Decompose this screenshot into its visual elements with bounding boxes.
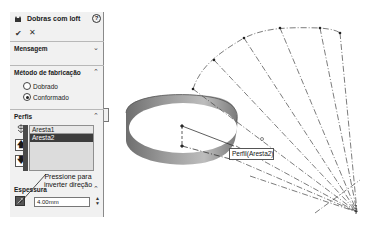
- section-profiles-label: Perfis: [14, 113, 32, 120]
- chevron-up-icon[interactable]: ⌃: [93, 112, 99, 120]
- ok-button[interactable]: ✔: [15, 29, 22, 38]
- help-icon[interactable]: ?: [92, 14, 101, 23]
- radio-dobrado[interactable]: Dobrado: [23, 82, 58, 90]
- selection-color-bar: [23, 125, 28, 171]
- radio-button-checked[interactable]: [23, 93, 31, 101]
- thickness-direction-icon[interactable]: [15, 196, 25, 206]
- section-method[interactable]: Método de fabricação ⌃: [10, 65, 104, 78]
- panel-splitter-handle[interactable]: [104, 108, 109, 122]
- section-method-label: Método de fabricação: [14, 69, 81, 76]
- chevron-down-icon[interactable]: ⌄: [93, 44, 99, 52]
- cancel-button[interactable]: ✕: [29, 28, 36, 37]
- thickness-spinner[interactable]: ▲▼: [95, 196, 100, 206]
- list-item-aresta1[interactable]: Aresta1: [30, 126, 93, 134]
- graphics-viewport: [110, 0, 371, 228]
- radio-label: Conformado: [33, 94, 69, 101]
- lofted-bend-icon: [14, 15, 22, 23]
- chevron-up-icon[interactable]: ⌃: [93, 68, 99, 76]
- panel-title: Dobras com loft: [27, 15, 80, 22]
- profile-callout[interactable]: Perfil(Aresta2): [229, 148, 274, 160]
- list-item-aresta2[interactable]: Aresta2: [30, 134, 93, 142]
- section-message[interactable]: Mensagem ⌄: [10, 41, 104, 54]
- radio-conformado[interactable]: Conformado: [23, 93, 69, 101]
- panel-header: Dobras com loft ?: [10, 12, 104, 26]
- section-profiles[interactable]: Perfis ⌃: [10, 109, 104, 122]
- section-message-label: Mensagem: [14, 45, 48, 52]
- radio-label: Dobrado: [33, 83, 58, 90]
- radio-button-unchecked[interactable]: [23, 82, 31, 90]
- thickness-input[interactable]: 4.00mm: [34, 197, 90, 207]
- reverse-direction-annotation: Pressione para inverter direção: [38, 173, 98, 189]
- lofted-band-model[interactable]: [126, 94, 237, 164]
- profiles-list[interactable]: Aresta1 Aresta2: [29, 125, 94, 171]
